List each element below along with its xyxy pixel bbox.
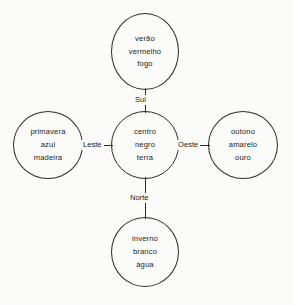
- edge-label-norte: Norte: [128, 193, 151, 203]
- node-center-centro: centro negro terra: [111, 111, 179, 179]
- node-top-line-2: vermelho: [129, 48, 161, 56]
- node-right-line-1: outono: [231, 128, 255, 136]
- five-elements-diagram: Sul Norte Leste Oeste verão vermelho fog…: [0, 0, 293, 305]
- edge-label-sul: Sul: [133, 95, 148, 105]
- node-left-line-1: primavera: [30, 128, 65, 136]
- node-left-primavera: primavera azul madeira: [13, 111, 83, 179]
- node-top-verao: verão vermelho fogo: [111, 13, 179, 90]
- node-bottom-inverno: inverno branco água: [111, 217, 179, 287]
- edge-label-oeste: Oeste: [176, 140, 200, 150]
- node-left-line-2: azul: [41, 141, 56, 149]
- node-center-line-2: negro: [135, 141, 155, 149]
- node-top-line-3: fogo: [137, 60, 152, 68]
- node-center-line-1: centro: [134, 128, 156, 136]
- node-right-line-3: ouro: [235, 154, 251, 162]
- edge-label-leste: Leste: [81, 140, 104, 150]
- node-left-line-3: madeira: [34, 154, 63, 162]
- node-top-line-1: verão: [135, 35, 155, 43]
- node-bottom-line-1: inverno: [132, 235, 158, 243]
- node-bottom-line-3: água: [136, 261, 154, 269]
- node-right-outono: outono amarelo ouro: [208, 111, 278, 179]
- node-center-line-3: terra: [137, 154, 153, 162]
- node-bottom-line-2: branco: [133, 248, 157, 256]
- node-right-line-2: amarelo: [229, 141, 258, 149]
